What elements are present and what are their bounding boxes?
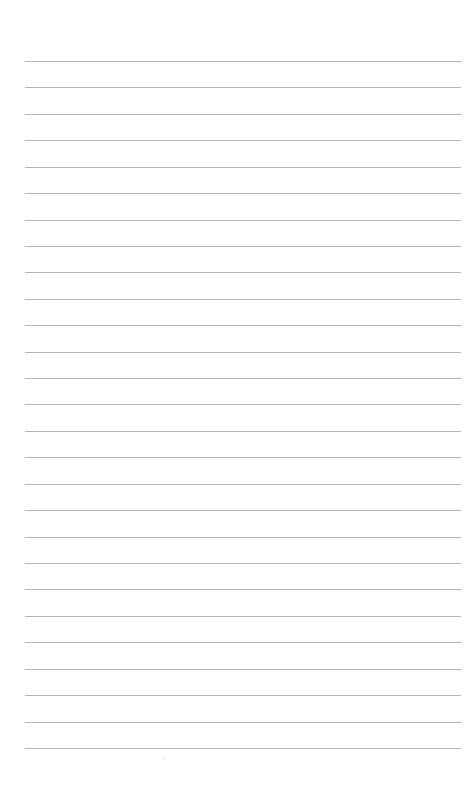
ruled-line — [25, 325, 461, 326]
ruled-line — [25, 246, 461, 247]
ruled-line — [25, 642, 461, 643]
ruled-line — [25, 537, 461, 538]
ruled-line — [25, 220, 461, 221]
ruled-line — [25, 563, 461, 564]
ruled-line — [25, 272, 461, 273]
ruled-line — [25, 61, 461, 62]
ruled-line — [25, 695, 461, 696]
ruled-line — [25, 140, 461, 141]
ruled-line — [25, 616, 461, 617]
ruled-line — [25, 87, 461, 88]
lined-paper-page — [0, 0, 475, 787]
ruled-line — [25, 114, 461, 115]
ruled-line — [25, 669, 461, 670]
ruled-line — [25, 193, 461, 194]
ruled-line — [25, 378, 461, 379]
ruled-line — [25, 167, 461, 168]
ruled-line — [25, 431, 461, 432]
ruled-line — [25, 484, 461, 485]
ruled-line — [25, 352, 461, 353]
ruled-line — [25, 589, 461, 590]
ruled-line — [25, 510, 461, 511]
ruled-line — [25, 404, 461, 405]
ruled-line — [25, 299, 461, 300]
ruled-line — [25, 748, 461, 749]
page-mark — [163, 758, 164, 759]
ruled-line — [25, 457, 461, 458]
ruled-line — [25, 722, 461, 723]
